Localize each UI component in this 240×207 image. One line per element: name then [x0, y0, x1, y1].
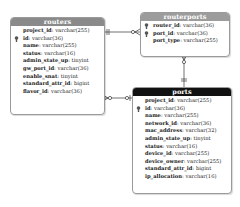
field-row: flavor_id: varchar(36)	[13, 88, 102, 96]
field-row: enable_snat: tinyint	[13, 73, 102, 81]
field-type: varchar(36)	[183, 22, 214, 28]
field-name: device_id	[145, 150, 172, 156]
field-name: gw_port_id	[23, 65, 54, 71]
primary-key-icon	[14, 36, 19, 42]
field-type: bigint	[74, 80, 89, 86]
entity-ports[interactable]: ports project_id: varchar(255) id: varch…	[132, 87, 232, 194]
entity-routers-title: routers	[11, 18, 104, 26]
field-row: id: varchar(36)	[13, 35, 102, 43]
field-name: id	[145, 105, 151, 111]
field-row: name: varchar(255)	[135, 112, 229, 120]
entity-routers-fields: project_id: varchar(255) id: varchar(36)…	[11, 26, 104, 98]
primary-key-icon	[136, 106, 141, 112]
relationship-routers-ports	[103, 95, 132, 101]
field-row: port_id: varchar(36)	[143, 30, 227, 38]
field-row: mac_address: varchar(32)	[135, 127, 229, 135]
field-type: tinyint	[61, 73, 78, 79]
field-type: varchar(36)	[58, 65, 89, 71]
field-row: device_owner: varchar(255)	[135, 158, 229, 166]
field-type: tinyint	[194, 135, 211, 141]
field-row: device_id: varchar(255)	[135, 150, 229, 158]
field-row: standard_attr_id: bigint	[13, 80, 102, 88]
field-row: router_id: varchar(36)	[143, 22, 227, 30]
field-name: network_id	[145, 120, 177, 126]
field-name: device_owner	[145, 158, 184, 164]
field-type: varchar(255)	[187, 158, 221, 164]
relationship-routerports-ports	[181, 55, 187, 87]
relationship-routers-routerports	[103, 29, 140, 35]
field-name: status	[145, 143, 163, 149]
entity-routerports[interactable]: routerports router_id: varchar(36) port_…	[140, 12, 230, 57]
field-name: mac_address	[145, 127, 182, 133]
primary-key-icon	[144, 31, 149, 37]
field-name: port_id	[153, 30, 173, 36]
field-name: standard_attr_id	[145, 165, 192, 171]
field-type: varchar(255)	[177, 97, 211, 103]
field-row: name: varchar(255)	[13, 42, 102, 50]
field-row: ip_allocation: varchar(16)	[135, 173, 229, 181]
primary-key-icon	[144, 23, 149, 29]
entity-ports-title: ports	[133, 88, 231, 96]
field-name: router_id	[153, 22, 180, 28]
field-type: varchar(36)	[154, 105, 185, 111]
field-name: name	[145, 112, 161, 118]
field-row: project_id: varchar(255)	[135, 97, 229, 105]
field-name: standard_attr_id	[23, 80, 70, 86]
field-name: ip_allocation	[145, 173, 182, 179]
entity-routers[interactable]: routers project_id: varchar(255) id: var…	[10, 17, 105, 115]
field-type: varchar(36)	[51, 88, 82, 94]
field-name: admin_state_up	[23, 57, 68, 63]
field-type: varchar(255)	[55, 27, 89, 33]
field-type: varchar(32)	[186, 127, 217, 133]
field-type: tinyint	[72, 57, 89, 63]
entity-ports-fields: project_id: varchar(255) id: varchar(36)…	[133, 96, 231, 184]
er-diagram-canvas: routers project_id: varchar(255) id: var…	[0, 0, 240, 207]
field-row: project_id: varchar(255)	[13, 27, 102, 35]
field-name: project_id	[23, 27, 52, 33]
field-type: varchar(16)	[44, 50, 75, 56]
field-type: bigint	[196, 165, 211, 171]
field-name: flavor_id	[23, 88, 48, 94]
field-type: varchar(16)	[185, 173, 216, 179]
field-type: varchar(255)	[164, 112, 198, 118]
field-row: status: varchar(16)	[13, 50, 102, 58]
field-row: standard_attr_id: bigint	[135, 165, 229, 173]
entity-routerports-title: routerports	[141, 13, 229, 21]
field-name: project_id	[145, 97, 174, 103]
field-name: enable_snat	[23, 73, 57, 79]
field-row: port_type: varchar(255)	[143, 37, 227, 45]
field-type: varchar(16)	[166, 143, 197, 149]
field-row: id: varchar(36)	[135, 105, 229, 113]
field-type: varchar(255)	[42, 42, 76, 48]
field-name: status	[23, 50, 41, 56]
field-name: port_type	[153, 37, 180, 43]
field-type: varchar(36)	[32, 35, 63, 41]
field-row: gw_port_id: varchar(36)	[13, 65, 102, 73]
field-type: varchar(255)	[184, 37, 218, 43]
field-name: id	[23, 35, 29, 41]
field-row: status: varchar(16)	[135, 143, 229, 151]
field-name: admin_state_up	[145, 135, 190, 141]
field-name: name	[23, 42, 39, 48]
field-row: network_id: varchar(36)	[135, 120, 229, 128]
field-row: admin_state_up: tinyint	[135, 135, 229, 143]
field-row: admin_state_up: tinyint	[13, 57, 102, 65]
field-type: varchar(36)	[177, 30, 208, 36]
entity-routerports-fields: router_id: varchar(36) port_id: varchar(…	[141, 21, 229, 48]
field-type: varchar(36)	[180, 120, 211, 126]
field-type: varchar(255)	[175, 150, 209, 156]
